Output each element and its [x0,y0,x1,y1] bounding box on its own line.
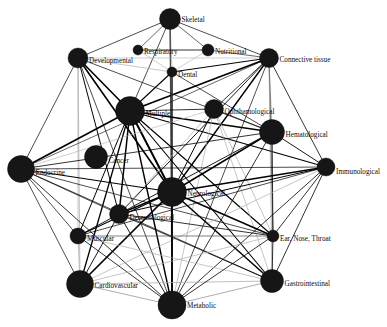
graph-edge [78,58,172,192]
graph-node-developmental[interactable] [68,48,88,68]
graph-edge [172,132,272,305]
graph-node-respiratory[interactable] [133,45,143,55]
graph-edge [269,58,326,167]
graph-edge [78,236,272,281]
graph-node-ear-nose-throat[interactable] [267,230,279,242]
graph-node-nutritional[interactable] [202,44,214,56]
graph-edge [119,214,272,281]
graph-node-cardiovascular[interactable] [67,271,94,298]
network-graph-canvas: SkeletalRespiratoryNutritionalDevelopmen… [0,0,387,327]
graph-node-label-respiratory: Respiratory [144,48,178,56]
graph-node-label-metabolic: Metabolic [187,302,216,310]
graph-node-dermatological[interactable] [110,205,129,224]
graph-node-label-muscular: Muscular [87,235,115,243]
graph-node-dental[interactable] [167,67,177,77]
graph-edge [172,192,273,236]
graph-node-cancer[interactable] [85,146,108,169]
graph-node-ophthalmological[interactable] [205,100,224,119]
graph-node-label-ophthalmological: Ophthamological [225,108,275,116]
graph-node-neurological[interactable] [158,178,187,207]
graph-edge [78,58,172,305]
graph-node-label-cardiovascular: Cardiovascular [95,282,139,290]
graph-edge [214,58,269,109]
graph-edge [130,111,172,305]
graph-node-label-dental: Dental [178,71,197,79]
graph-edge [21,58,78,169]
graph-node-label-endocrine: Endocrine [36,169,66,177]
graph-node-label-gastrointestinal: Gastrointestinal [285,280,331,288]
graph-node-gastrointestinal[interactable] [261,270,284,293]
graph-edge [172,236,273,305]
graph-node-hematological[interactable] [260,120,285,145]
graph-node-label-multiple: Multiple [146,110,171,118]
graph-node-label-dermatological: Dermatological [130,214,175,222]
graph-node-muscular[interactable] [70,228,86,244]
graph-node-label-nutritional: Nutritional [215,48,247,56]
graph-edge [272,167,326,281]
graph-node-label-neurological: Neurological [188,190,226,198]
graph-node-immunological[interactable] [317,158,335,176]
graph-node-multiple[interactable] [116,97,145,126]
network-graph-figure: SkeletalRespiratoryNutritionalDevelopmen… [0,0,387,327]
graph-node-label-connective-tissue: Connective tissue [280,56,331,64]
graph-edge [21,169,80,284]
graph-node-label-skeletal: Skeletal [182,16,205,24]
graph-edge [21,132,272,169]
graph-node-label-cancer: Cancer [109,157,130,165]
graph-node-endocrine[interactable] [8,156,35,183]
graph-edge [130,58,269,111]
graph-node-label-immunological: Immunological [336,168,380,176]
graph-node-metabolic[interactable] [158,291,186,319]
graph-node-label-developmental: Developmental [89,57,133,65]
graph-node-label-hematological: Hematological [286,131,328,139]
graph-node-skeletal[interactable] [160,9,181,30]
graph-edge [21,167,326,169]
graph-node-connective-tissue[interactable] [260,49,279,68]
graph-edge [119,214,172,305]
graph-node-label-ear-nose-throat: Ear, Nose, Throat [280,235,331,243]
